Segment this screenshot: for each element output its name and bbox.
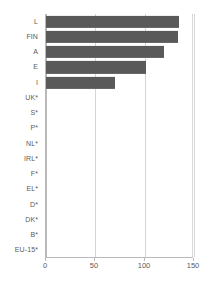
bar-row (46, 243, 192, 258)
gridline-150 (194, 14, 195, 257)
y-axis-label-f: F* (31, 170, 38, 178)
y-axis-label-a: A (33, 48, 38, 56)
y-axis-label-nl: NL* (26, 140, 38, 148)
y-axis-label-s: S* (30, 109, 38, 117)
bar-row (46, 151, 192, 166)
y-axis-label-l: L (34, 18, 38, 26)
y-axis-label-eu15: EU-15* (15, 246, 38, 254)
bar-row (46, 60, 192, 75)
bar-e[interactable] (46, 61, 146, 73)
y-axis-label-b: B* (30, 231, 38, 239)
x-axis-label-0: 0 (43, 261, 47, 270)
y-axis-label-e: E (33, 63, 38, 71)
bar-fin[interactable] (46, 31, 178, 43)
y-axis-label-i: I (36, 79, 38, 87)
bar-row (46, 14, 192, 29)
y-axis-label-uk: UK* (25, 94, 38, 102)
bar-row (46, 29, 192, 44)
bar-row (46, 90, 192, 105)
x-axis-label-150: 150 (187, 261, 200, 270)
y-axis-label-fin: FIN (26, 33, 38, 41)
x-axis-label-100: 100 (138, 261, 151, 270)
y-axis-label-dk: DK* (25, 216, 38, 224)
bar-row (46, 228, 192, 243)
x-axis-tick-labels: 050100150 (45, 261, 193, 275)
bar-row (46, 136, 192, 151)
bar-i[interactable] (46, 77, 115, 89)
bar-series (46, 14, 192, 257)
bar-row (46, 182, 192, 197)
y-axis-category-labels: LFINAEIUK*S*P*NL*IRL*F*EL*D*DK*B*EU-15* (0, 14, 42, 258)
bar-row (46, 197, 192, 212)
x-axis-label-50: 50 (90, 261, 98, 270)
y-axis-label-d: D* (30, 201, 38, 209)
bar-l[interactable] (46, 16, 179, 28)
bar-row (46, 167, 192, 182)
bar-row (46, 75, 192, 90)
bar-row (46, 212, 192, 227)
bar-row (46, 45, 192, 60)
bar-a[interactable] (46, 46, 164, 58)
bar-chart: LFINAEIUK*S*P*NL*IRL*F*EL*D*DK*B*EU-15* … (0, 0, 210, 294)
y-axis-label-irl: IRL* (24, 155, 38, 163)
bar-row (46, 121, 192, 136)
plot-area (45, 14, 193, 258)
y-axis-label-p: P* (30, 124, 38, 132)
y-axis-label-el: EL* (26, 185, 38, 193)
bar-row (46, 106, 192, 121)
